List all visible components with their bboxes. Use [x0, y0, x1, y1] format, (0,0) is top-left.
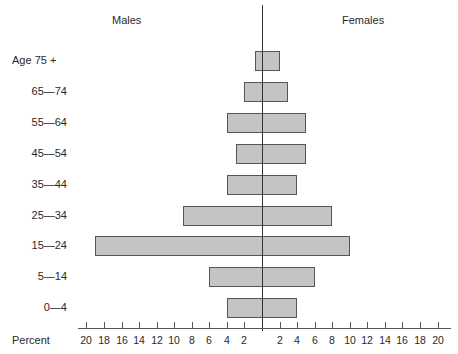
- x-tick: [192, 322, 193, 328]
- x-tick: [174, 322, 175, 328]
- x-tick: [86, 322, 87, 328]
- x-tick-label: 14: [129, 334, 149, 346]
- x-axis-label: Percent: [12, 334, 50, 346]
- x-tick: [227, 322, 228, 328]
- age-group-bar: [95, 236, 350, 256]
- age-group-bar: [183, 206, 332, 226]
- males-title: Males: [112, 14, 141, 26]
- x-tick: [139, 322, 140, 328]
- age-label: 0—4: [44, 301, 67, 313]
- age-label: 55—64: [32, 116, 67, 128]
- x-tick-label: 12: [357, 334, 377, 346]
- x-tick-label: 18: [410, 334, 430, 346]
- x-tick: [367, 322, 368, 328]
- x-tick: [280, 322, 281, 328]
- x-tick: [104, 322, 105, 328]
- x-tick: [315, 322, 316, 328]
- center-axis-line: [262, 5, 263, 331]
- age-group-bar: [236, 144, 306, 164]
- x-tick: [402, 322, 403, 328]
- x-tick: [244, 322, 245, 328]
- x-tick: [385, 322, 386, 328]
- age-group-bar: [244, 82, 288, 102]
- age-label: 45—54: [32, 147, 67, 159]
- age-group-bar: [227, 113, 306, 133]
- x-tick-label: 4: [287, 334, 307, 346]
- age-label: Age 75 +: [12, 54, 56, 66]
- x-tick: [350, 322, 351, 328]
- females-title: Females: [342, 14, 384, 26]
- age-label: 15—24: [32, 239, 67, 251]
- x-tick-label: 20: [428, 334, 448, 346]
- x-axis-line: [78, 328, 451, 329]
- x-tick-label: 2: [234, 334, 254, 346]
- population-pyramid-chart: Males Females Age 75 +65—7455—6445—5435—…: [0, 0, 458, 354]
- x-tick: [157, 322, 158, 328]
- x-tick-label: 8: [322, 334, 342, 346]
- age-label: 25—34: [32, 209, 67, 221]
- x-tick: [438, 322, 439, 328]
- age-label: 65—74: [32, 85, 67, 97]
- x-tick: [122, 322, 123, 328]
- age-label: 5—14: [38, 270, 67, 282]
- age-label: 35—44: [32, 178, 67, 190]
- age-group-bar: [255, 51, 280, 71]
- x-tick: [420, 322, 421, 328]
- x-tick-label: 20: [76, 334, 96, 346]
- age-labels: Age 75 +65—7455—6445—5435—4425—3415—245—…: [0, 0, 67, 354]
- x-tick: [209, 322, 210, 328]
- x-tick-label: 18: [94, 334, 114, 346]
- x-tick-label: 10: [164, 334, 184, 346]
- x-tick: [297, 322, 298, 328]
- x-tick: [332, 322, 333, 328]
- x-tick-label: 6: [199, 334, 219, 346]
- x-tick-label: 16: [392, 334, 412, 346]
